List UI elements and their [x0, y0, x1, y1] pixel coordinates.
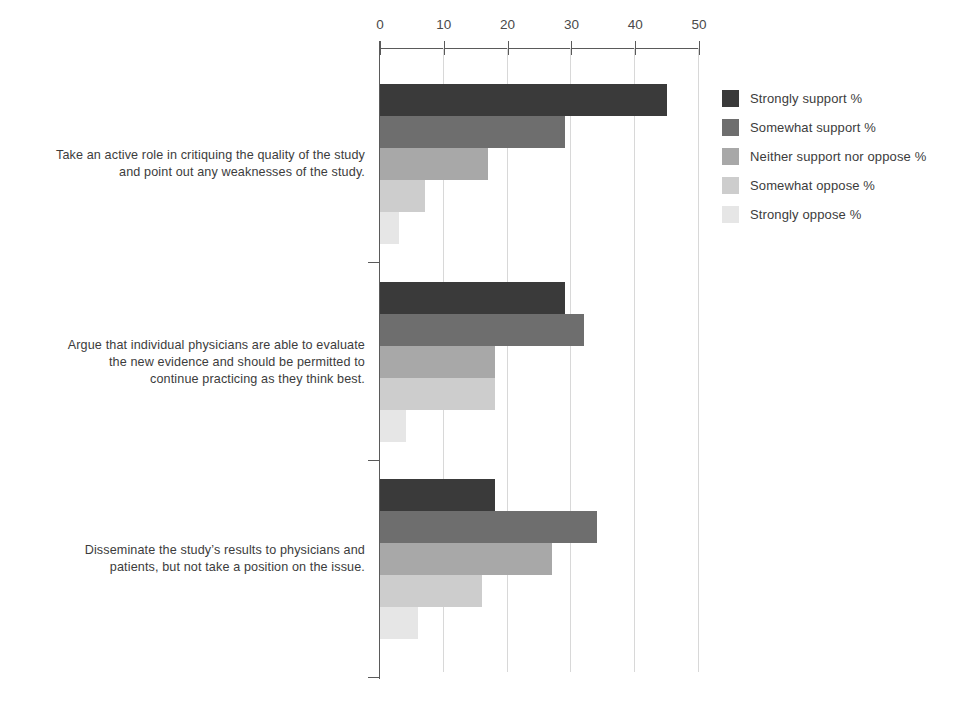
bar-group2-series5 — [380, 410, 406, 442]
bar-group3-series2 — [380, 511, 597, 543]
gridline-30 — [570, 48, 571, 672]
legend-label-5: Strongly oppose % — [750, 207, 861, 222]
gridline-40 — [634, 48, 635, 672]
bar-group1-series1 — [380, 84, 667, 116]
category-label-1: Take an active role in critiquing the qu… — [10, 147, 365, 181]
legend-item-1[interactable]: Strongly support % — [722, 84, 967, 113]
x-tick-label-0: 0 — [376, 17, 384, 32]
x-tick-50 — [699, 41, 700, 55]
bar-group1-series3 — [380, 148, 488, 180]
x-tick-label-10: 10 — [436, 17, 451, 32]
x-tick-label-20: 20 — [500, 17, 515, 32]
gridline-50 — [698, 48, 699, 672]
legend-item-3[interactable]: Neither support nor oppose % — [722, 142, 967, 171]
plot-area — [380, 48, 699, 672]
bar-group2-series1 — [380, 282, 565, 314]
bar-group3-series3 — [380, 543, 552, 575]
x-tick-label-30: 30 — [564, 17, 579, 32]
x-tick-label-50: 50 — [691, 17, 706, 32]
legend-swatch-icon-4 — [722, 177, 739, 194]
legend-swatch-icon-5 — [722, 206, 739, 223]
bar-group1-series2 — [380, 116, 565, 148]
bar-group1-series5 — [380, 212, 399, 244]
bar-group2-series4 — [380, 378, 495, 410]
legend-item-5[interactable]: Strongly oppose % — [722, 200, 967, 229]
bar-group3-series5 — [380, 607, 418, 639]
y-axis-end-tick — [368, 677, 380, 678]
legend-label-2: Somewhat support % — [750, 120, 876, 135]
x-tick-label-40: 40 — [628, 17, 643, 32]
legend-label-1: Strongly support % — [750, 91, 862, 106]
group-separator-tick-1 — [368, 262, 380, 263]
category-label-2: Argue that individual physicians are abl… — [10, 337, 365, 388]
legend: Strongly support %Somewhat support %Neit… — [722, 84, 967, 229]
bar-group3-series1 — [380, 479, 495, 511]
bar-group1-series4 — [380, 180, 425, 212]
category-label-3: Disseminate the study’s results to physi… — [10, 542, 365, 576]
legend-swatch-icon-1 — [722, 90, 739, 107]
legend-label-4: Somewhat oppose % — [750, 178, 875, 193]
legend-label-3: Neither support nor oppose % — [750, 149, 926, 164]
bar-group3-series4 — [380, 575, 482, 607]
legend-item-4[interactable]: Somewhat oppose % — [722, 171, 967, 200]
bar-group2-series2 — [380, 314, 584, 346]
legend-item-2[interactable]: Somewhat support % — [722, 113, 967, 142]
bar-group2-series3 — [380, 346, 495, 378]
legend-swatch-icon-2 — [722, 119, 739, 136]
bar-chart: 01020304050 Take an active role in criti… — [0, 0, 975, 704]
legend-swatch-icon-3 — [722, 148, 739, 165]
group-separator-tick-2 — [368, 460, 380, 461]
